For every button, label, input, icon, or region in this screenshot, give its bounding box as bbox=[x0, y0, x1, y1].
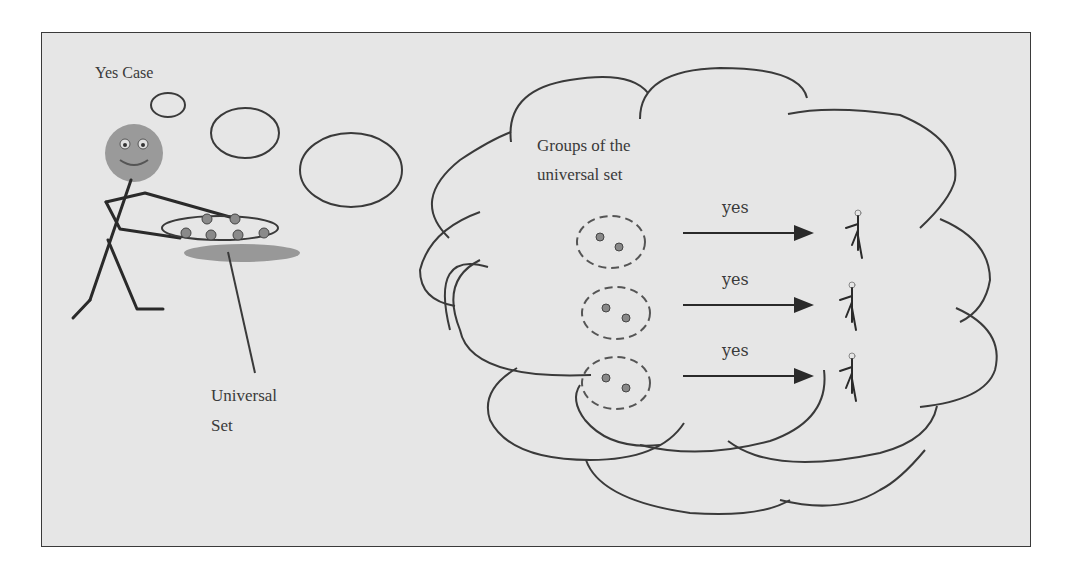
group-sets bbox=[577, 216, 650, 409]
diagram-title: Yes Case bbox=[95, 58, 153, 87]
thought-cloud bbox=[420, 68, 997, 514]
universal-set-label-line2: Set bbox=[211, 411, 277, 441]
arrow-label-2: yes bbox=[722, 265, 749, 294]
arrow-label-1: yes bbox=[722, 193, 749, 222]
universal-set-label-line1: Universal bbox=[211, 381, 277, 411]
universal-set-tray bbox=[162, 214, 300, 373]
thought-bubbles bbox=[151, 93, 402, 207]
small-person-icons bbox=[840, 210, 862, 401]
diagram-canvas bbox=[0, 0, 1066, 578]
universal-set-label: Universal Set bbox=[211, 381, 277, 441]
cloud-label-line1: Groups of the bbox=[537, 131, 630, 160]
cloud-label: Groups of the universal set bbox=[537, 131, 630, 189]
group-elements bbox=[596, 233, 630, 392]
cloud-label-line2: universal set bbox=[537, 160, 630, 189]
arrow-label-3: yes bbox=[722, 336, 749, 365]
